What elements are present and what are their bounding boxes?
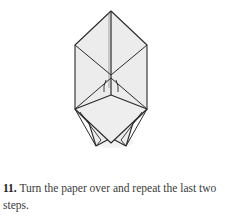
instruction-caption: 11. Turn the paper over and repeat the l… [3,180,223,214]
step-text: Turn the paper over and repeat the last … [3,182,216,211]
origami-diagram [0,0,225,150]
step-number: 11. [3,182,17,194]
origami-fold-illustration [0,0,225,150]
